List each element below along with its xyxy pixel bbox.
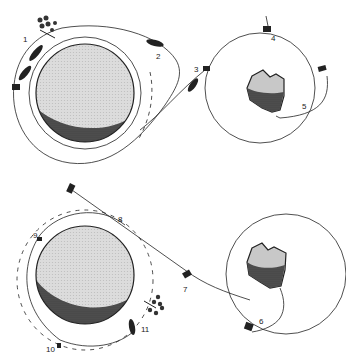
asteroid-orbit-bottom xyxy=(226,214,346,334)
stage-label-4: 4 xyxy=(271,34,276,43)
spacecraft-stage-7 xyxy=(182,269,192,278)
asteroid-bottom xyxy=(247,243,286,288)
asteroid-top xyxy=(247,70,284,112)
stage-label-3: 3 xyxy=(194,65,199,74)
stage-label-5: 5 xyxy=(302,102,307,111)
spacecraft-stage-8 xyxy=(66,183,75,194)
spacecraft-stage-10 xyxy=(57,343,61,348)
stage-label-2: 2 xyxy=(156,52,161,61)
spacecraft-stage-9 xyxy=(37,237,42,241)
stage-label-11: 11 xyxy=(141,325,150,334)
return-panel: 6 7 8 9 10 11 xyxy=(17,183,346,354)
mission-diagram: 1 2 3 4 5 xyxy=(0,0,346,361)
stage-label-7: 7 xyxy=(183,285,188,294)
spacecraft-stage-2 xyxy=(146,38,165,48)
spacecraft-stage-5 xyxy=(318,65,327,72)
stage-label-6: 6 xyxy=(259,317,264,326)
departure-arc xyxy=(252,288,284,332)
stage-label-8: 8 xyxy=(118,215,123,224)
antenna-stage-4 xyxy=(266,16,268,26)
spacecraft-stage-4 xyxy=(263,26,271,32)
stage-label-1: 1 xyxy=(23,35,28,44)
planet-earth-bottom xyxy=(30,226,140,330)
stage-label-9: 9 xyxy=(33,231,38,240)
stage-label-10: 10 xyxy=(46,345,55,354)
outbound-panel: 1 2 3 4 5 xyxy=(12,16,327,164)
